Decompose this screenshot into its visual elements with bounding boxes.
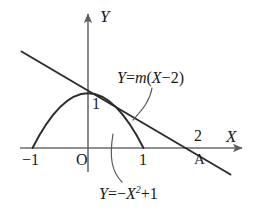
line-eq-minus: − [162, 69, 171, 86]
y-tick-label-1: 1 [92, 96, 100, 112]
parabola-eq-var: X [126, 185, 136, 202]
figure-canvas: Y X O −1 1 2 A 1 Y=m(X−2) Y=−X2+1 [0, 0, 256, 221]
parabola-eq-equals: = [108, 185, 117, 202]
point-a-label: A [194, 152, 205, 167]
y-axis-label: Y [100, 8, 109, 25]
line-eq-const: 2 [171, 69, 179, 86]
x-tick-label-1: 1 [139, 152, 147, 168]
x-axis-label: X [226, 128, 236, 145]
line-eq-lhs: Y [117, 69, 126, 86]
line-eq-equals: = [126, 69, 135, 86]
x-tick-label-neg-1: −1 [22, 152, 39, 168]
line-eq-var: X [152, 69, 162, 86]
parabola-equation-label: Y=−X2+1 [99, 186, 158, 202]
x-tick-label-2: 2 [194, 128, 202, 144]
line-equation-label: Y=m(X−2) [117, 70, 184, 86]
line-eq-close-paren: ) [179, 69, 184, 86]
parabola-eq-minus: − [117, 185, 126, 202]
line-eq-slope: m [135, 69, 147, 86]
parabola-eq-plus-one: +1 [141, 185, 158, 202]
origin-label: O [76, 152, 88, 168]
line-label-leader [133, 88, 152, 120]
parabola-label-leader [111, 134, 122, 182]
parabola-eq-lhs: Y [99, 185, 108, 202]
